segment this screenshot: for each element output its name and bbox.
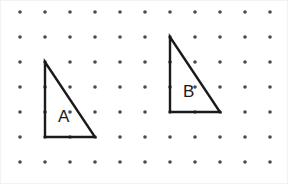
- triangle-b: [170, 37, 220, 112]
- grid-dot: [118, 60, 122, 64]
- grid-dot: [243, 85, 247, 89]
- grid-dot: [68, 10, 72, 14]
- triangle-b-label: B: [183, 82, 194, 101]
- grid-dot: [18, 35, 22, 39]
- dot-grid: [18, 10, 272, 164]
- grid-dot: [243, 35, 247, 39]
- grid-dot: [143, 35, 147, 39]
- grid-dot: [143, 85, 147, 89]
- grid-dot: [193, 160, 197, 164]
- grid-dot: [268, 35, 272, 39]
- grid-dot: [143, 110, 147, 114]
- triangle-a: [45, 62, 95, 137]
- grid-dot: [143, 135, 147, 139]
- grid-dot: [193, 35, 197, 39]
- shape-label-layer: AB: [58, 82, 194, 126]
- grid-dot: [18, 10, 22, 14]
- grid-dot: [18, 85, 22, 89]
- grid-dot: [93, 10, 97, 14]
- dot-grid-figure: AB: [0, 0, 288, 184]
- grid-dot: [93, 85, 97, 89]
- grid-dot: [118, 35, 122, 39]
- grid-dot: [168, 10, 172, 14]
- grid-dot: [218, 135, 222, 139]
- grid-dot: [118, 85, 122, 89]
- grid-dot: [93, 35, 97, 39]
- grid-dot: [118, 135, 122, 139]
- grid-dot: [18, 135, 22, 139]
- grid-dot: [268, 85, 272, 89]
- grid-dot: [193, 10, 197, 14]
- grid-dot: [68, 60, 72, 64]
- triangle-a-label: A: [58, 107, 70, 126]
- grid-dot: [218, 60, 222, 64]
- grid-dot: [193, 135, 197, 139]
- grid-dot: [268, 135, 272, 139]
- grid-dot: [68, 85, 72, 89]
- grid-dot: [193, 60, 197, 64]
- grid-dot: [268, 60, 272, 64]
- grid-dot: [43, 160, 47, 164]
- grid-dot: [93, 110, 97, 114]
- grid-dot: [143, 10, 147, 14]
- grid-dot: [18, 110, 22, 114]
- grid-dot: [118, 10, 122, 14]
- grid-dot: [268, 10, 272, 14]
- grid-dot: [168, 135, 172, 139]
- grid-dot: [218, 35, 222, 39]
- grid-dot: [218, 85, 222, 89]
- grid-dot: [93, 60, 97, 64]
- grid-dot: [68, 35, 72, 39]
- grid-dot: [93, 160, 97, 164]
- grid-dot: [118, 110, 122, 114]
- grid-dot: [243, 60, 247, 64]
- diagram-canvas: AB: [1, 1, 288, 184]
- grid-dot: [243, 160, 247, 164]
- grid-dot: [218, 10, 222, 14]
- grid-dot: [218, 160, 222, 164]
- grid-dot: [243, 135, 247, 139]
- grid-dot: [68, 160, 72, 164]
- grid-dot: [18, 160, 22, 164]
- grid-dot: [143, 160, 147, 164]
- grid-dot: [118, 160, 122, 164]
- grid-dot: [268, 160, 272, 164]
- grid-dot: [143, 60, 147, 64]
- grid-dot: [243, 10, 247, 14]
- grid-dot: [268, 110, 272, 114]
- grid-dot: [168, 160, 172, 164]
- grid-dot: [43, 35, 47, 39]
- grid-dot: [18, 60, 22, 64]
- grid-dot: [43, 10, 47, 14]
- grid-dot: [243, 110, 247, 114]
